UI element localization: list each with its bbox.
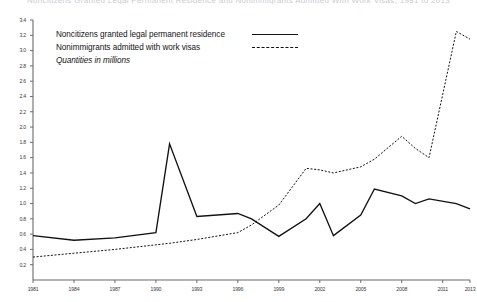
y-tick-label: 2.6 xyxy=(10,78,26,84)
x-tick-label: 1990 xyxy=(143,286,169,292)
y-tick-label: 1.4 xyxy=(10,170,26,176)
y-tick-label: 0.4 xyxy=(10,246,26,252)
y-tick-label: 2.4 xyxy=(10,93,26,99)
x-tick-label: 2002 xyxy=(307,286,333,292)
legend-item-permanent-residence: Noncitizens granted legal permanent resi… xyxy=(56,28,306,41)
dashed-line-key xyxy=(252,47,298,48)
y-tick-label: 1.6 xyxy=(10,154,26,160)
y-tick-label: 3.0 xyxy=(10,47,26,53)
y-tick-label: 3.2 xyxy=(10,32,26,38)
x-tick-label: 1993 xyxy=(184,286,210,292)
y-tick-label: 3.4 xyxy=(10,17,26,23)
legend-item-label: Noncitizens granted legal permanent resi… xyxy=(56,30,225,39)
y-tick-label: 2.2 xyxy=(10,109,26,115)
x-tick-label: 2013 xyxy=(457,286,477,292)
x-tick-label: 1999 xyxy=(266,286,292,292)
legend-item-work-visas: Nonimmigrants admitted with work visas xyxy=(56,41,306,54)
y-tick-label: 1.8 xyxy=(10,139,26,145)
y-tick-label: 0.2 xyxy=(10,262,26,268)
x-tick-label: 1987 xyxy=(102,286,128,292)
solid-line-key xyxy=(252,34,298,35)
x-tick-label: 2005 xyxy=(348,286,374,292)
y-tick-label: 1.2 xyxy=(10,185,26,191)
chart-container: Noncitizens Granted Legal Permanent Resi… xyxy=(0,0,477,302)
y-tick-label: 0.6 xyxy=(10,231,26,237)
x-tick-label: 2011 xyxy=(430,286,456,292)
series-line-permanent-residence xyxy=(33,144,470,240)
y-tick-label: 1.0 xyxy=(10,200,26,206)
legend-item-label: Nonimmigrants admitted with work visas xyxy=(56,43,200,52)
x-tick-label: 1981 xyxy=(20,286,46,292)
x-tick-label: 1996 xyxy=(225,286,251,292)
y-tick-label: 2.8 xyxy=(10,63,26,69)
x-tick-label: 1984 xyxy=(61,286,87,292)
chart-legend: Noncitizens granted legal permanent resi… xyxy=(56,28,306,67)
x-tick-label: 2008 xyxy=(389,286,415,292)
y-tick-label: 2.0 xyxy=(10,124,26,130)
y-tick-label: 0.8 xyxy=(10,216,26,222)
legend-units-note: Quantities in millions xyxy=(56,54,306,67)
